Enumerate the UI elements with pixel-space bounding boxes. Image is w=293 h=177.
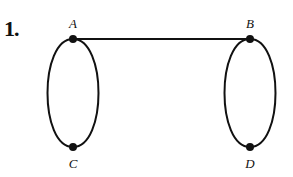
edge-b-d-right xyxy=(250,39,276,147)
vertex-label-c: C xyxy=(69,156,78,171)
vertex-c xyxy=(69,143,77,151)
edge-a-c-right xyxy=(73,39,99,147)
vertex-label-a: A xyxy=(68,16,77,31)
graph-diagram: A B C D xyxy=(0,0,293,177)
vertex-a xyxy=(69,35,77,43)
vertex-b xyxy=(246,35,254,43)
vertex-label-b: B xyxy=(246,16,254,31)
vertex-d xyxy=(246,143,254,151)
edge-a-c-left xyxy=(48,39,74,147)
vertex-label-d: D xyxy=(244,156,255,171)
edge-b-d-left xyxy=(225,39,251,147)
